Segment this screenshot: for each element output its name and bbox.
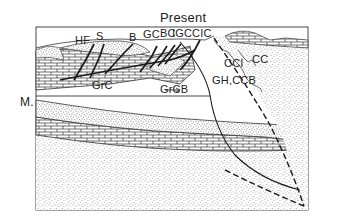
label-cci: CCI (224, 58, 244, 69)
label-gc: GC (143, 29, 160, 40)
label-grcb: GrCB (160, 84, 188, 95)
label-cic: CIC (192, 28, 212, 39)
label-gh-ccb: GH,CCB (212, 75, 256, 86)
label-b: B (129, 32, 137, 43)
side-label: M. (20, 96, 34, 108)
label-cc: CC (252, 54, 268, 65)
diagram-title: Present (160, 11, 206, 24)
label-s: S (96, 31, 104, 42)
label-igc: IGC (172, 28, 192, 39)
label-hf: HF (75, 35, 90, 46)
label-grc: GrC (92, 80, 113, 91)
